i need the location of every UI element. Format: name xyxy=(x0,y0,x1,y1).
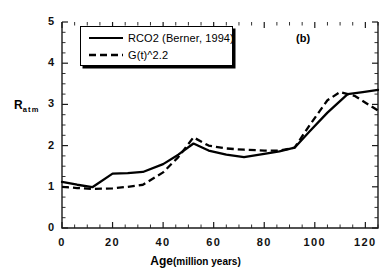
y-axis-label: Ratm xyxy=(14,98,40,114)
legend-item-rco2: RCO2 (Berner, 1994) xyxy=(88,30,234,46)
y-tick-label: 0 xyxy=(28,221,54,233)
legend-swatch-solid xyxy=(88,33,124,43)
y-tick-label: 1 xyxy=(28,180,54,192)
legend-label-gt: G(t)^2.2 xyxy=(128,49,168,61)
series-line-rco2 xyxy=(62,90,378,187)
legend-item-gt: G(t)^2.2 xyxy=(88,47,168,63)
x-tick-label: 20 xyxy=(91,236,135,248)
x-tick-label: 0 xyxy=(40,236,84,248)
chart-legend: RCO2 (Berner, 1994) G(t)^2.2 xyxy=(80,26,233,66)
x-tick-label: 40 xyxy=(141,236,185,248)
y-tick-label: 4 xyxy=(28,56,54,68)
x-tick-label: 60 xyxy=(192,236,236,248)
x-tick-label: 120 xyxy=(343,236,387,248)
data-series xyxy=(62,90,378,189)
y-axis-label-text: R xyxy=(14,98,23,112)
x-tick-label: 80 xyxy=(242,236,286,248)
x-axis-label: Age(million years) xyxy=(0,254,391,268)
y-tick-label: 2 xyxy=(28,139,54,151)
x-axis-label-units: (million years) xyxy=(173,256,241,267)
series-line-gt xyxy=(62,92,378,189)
x-axis-label-text: Age xyxy=(150,254,173,268)
legend-label-rco2: RCO2 (Berner, 1994) xyxy=(128,32,234,44)
panel-label: (b) xyxy=(296,32,310,44)
y-axis-label-subscript: atm xyxy=(23,105,40,114)
legend-swatch-dashed xyxy=(88,50,124,60)
x-tick-label: 100 xyxy=(293,236,337,248)
y-tick-label: 5 xyxy=(28,15,54,27)
chart-figure: 020406080100120012345 Ratm Age(million y… xyxy=(0,0,391,278)
